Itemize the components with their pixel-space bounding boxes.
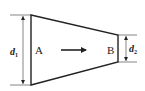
label-d2: d2 xyxy=(129,43,137,55)
label-d1: d1 xyxy=(10,46,18,58)
label-b: B xyxy=(107,44,114,56)
tapered-pipe-diagram: A B d1 d2 xyxy=(0,0,145,91)
label-a: A xyxy=(35,44,43,56)
